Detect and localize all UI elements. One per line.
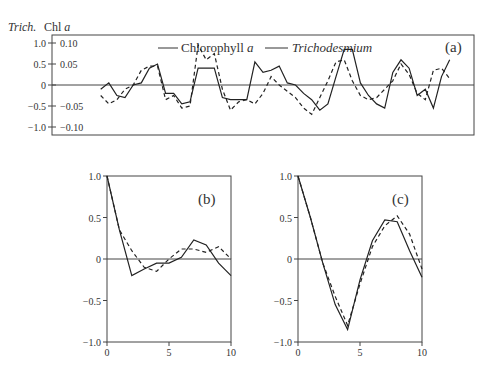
chart-figure: Trich. Chl a 1.00.50−0.5−1.00.100.05−0.0… — [0, 0, 500, 378]
inner-tick-label: 0.05 — [60, 59, 78, 70]
y-tick-label: 0.5 — [34, 59, 47, 70]
y-tick-label: 1.0 — [280, 171, 293, 182]
series-chlorophyll-a — [101, 45, 450, 114]
y-tick-label: 0 — [96, 254, 101, 265]
x-tick-label: 5 — [167, 347, 172, 358]
x-tick-label: 10 — [226, 347, 236, 358]
legend-trichodesmium: Trichodesmium — [292, 40, 372, 55]
y-tick-label: −1.0 — [274, 337, 292, 348]
y-tick-label: 0 — [287, 254, 292, 265]
x-tick-label: 10 — [417, 347, 427, 358]
y-tick-label: 0.5 — [280, 213, 293, 224]
y-tick-label: 1.0 — [34, 38, 47, 49]
panel-a-series — [101, 45, 450, 114]
y-tick-label: 0.5 — [89, 213, 102, 224]
series-trichodesmium — [101, 49, 450, 110]
y-tick-label: 0 — [41, 80, 46, 91]
y-tick-label: −0.5 — [28, 101, 46, 112]
y-tick-label: −1.0 — [28, 122, 46, 133]
y-tick-label: −0.5 — [83, 296, 101, 307]
inner-tick-label: −0.10 — [60, 122, 83, 133]
y-tick-label: 1.0 — [89, 171, 102, 182]
panel-a-legend: Chlorophyll a Trichodesmium — [158, 40, 372, 55]
panel-c-label: (c) — [392, 191, 409, 208]
inner-tick-label: −0.05 — [60, 101, 83, 112]
panel-a-ylabel-chl: Chl a — [44, 20, 70, 34]
y-tick-label: −0.5 — [274, 296, 292, 307]
x-tick-label: 5 — [358, 347, 363, 358]
inner-tick-label: 0.10 — [60, 38, 78, 49]
panel-a-ylabel-chl-text: Chl — [44, 20, 64, 34]
panel-a-ylabel-trich: Trich. — [8, 20, 36, 34]
panel-b: (b) 1.00.50−0.5−1.00510 — [83, 171, 236, 358]
y-tick-label: −1.0 — [83, 337, 101, 348]
x-tick-label: 0 — [296, 347, 301, 358]
panel-c: (c) 1.00.50−0.5−1.00510 — [274, 171, 427, 358]
legend-chlorophyll: Chlorophyll a — [181, 40, 254, 55]
panel-a: Trich. Chl a 1.00.50−0.5−1.00.100.05−0.0… — [8, 20, 474, 135]
panel-b-label: (b) — [198, 191, 216, 208]
x-tick-label: 0 — [105, 347, 110, 358]
panel-a-label: (a) — [445, 39, 462, 56]
